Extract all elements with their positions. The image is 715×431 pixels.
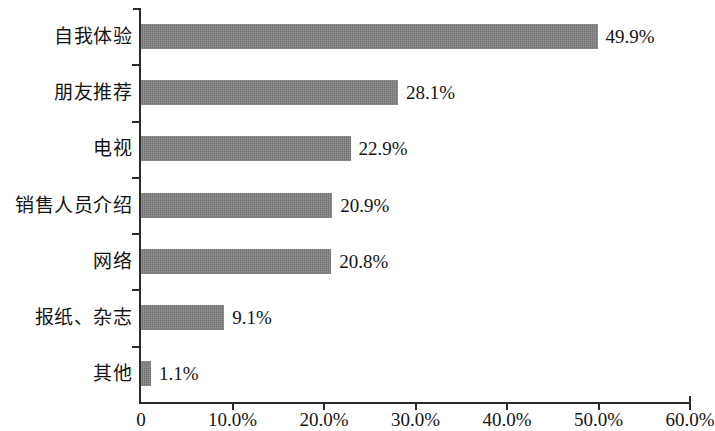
bar [141,249,331,274]
x-axis-tick-label: 30.0% [371,409,461,431]
y-axis-tick [132,177,140,179]
y-axis-tick [132,64,140,66]
category-label: 其他 [93,360,132,387]
y-axis-tick [132,121,140,123]
bar-value-label: 49.9% [606,23,655,50]
bar-value-label: 28.1% [406,79,455,106]
bar-value-label: 9.1% [232,304,272,331]
category-label: 报纸、杂志 [35,304,133,331]
bar [141,80,398,105]
y-axis-tick [132,289,140,291]
bar-value-label: 20.8% [339,248,388,275]
bar-value-label: 22.9% [359,135,408,162]
category-label: 销售人员介绍 [15,192,132,219]
y-axis-tick [132,233,140,235]
bar-row: 销售人员介绍20.9% [0,192,715,219]
bar [141,361,151,386]
x-axis-tick-label: 50.0% [554,409,644,431]
x-axis-tick-label: 10.0% [188,409,278,431]
category-label: 朋友推荐 [54,79,132,106]
bar-value-label: 1.1% [159,360,199,387]
bar-value-label: 20.9% [340,192,389,219]
bar-row: 朋友推荐28.1% [0,79,715,106]
category-label: 网络 [93,248,132,275]
bar [141,305,224,330]
category-label: 自我体验 [54,23,132,50]
bar-row: 网络20.8% [0,248,715,275]
category-label: 电视 [93,135,132,162]
x-axis-tick-label: 40.0% [462,409,552,431]
bar [141,24,598,49]
bar-row: 自我体验49.9% [0,23,715,50]
bar [141,193,332,218]
y-axis-tick [132,346,140,348]
bar-row: 电视22.9% [0,135,715,162]
bar-row: 报纸、杂志9.1% [0,304,715,331]
x-axis-tick-label: 0 [96,409,186,431]
bar [141,136,351,161]
y-axis-top-cap [133,8,140,10]
x-axis-tick-label: 20.0% [279,409,369,431]
bar-chart: 自我体验49.9%朋友推荐28.1%电视22.9%销售人员介绍20.9%网络20… [0,0,715,431]
x-axis-tick-label: 60.0% [645,409,715,431]
bar-row: 其他1.1% [0,360,715,387]
